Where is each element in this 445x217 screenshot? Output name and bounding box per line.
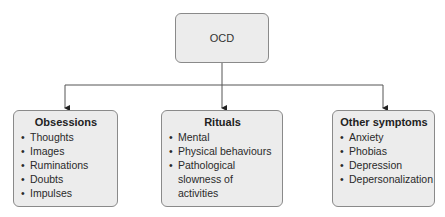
root-label: OCD (210, 32, 234, 44)
item-list: Thoughts Images Ruminations Doubts Impul… (21, 130, 111, 200)
list-item: Physical behaviours (169, 144, 276, 158)
node-obsessions: Obsessions Thoughts Images Ruminations D… (13, 110, 118, 207)
list-item: Pathological slowness of activities (169, 158, 276, 200)
node-rituals: Rituals Mental Physical behaviours Patho… (161, 110, 283, 207)
list-item: Doubts (21, 172, 111, 186)
list-item: Depression (340, 158, 428, 172)
list-item: Mental (169, 130, 276, 144)
list-item: Depersonalization (340, 172, 428, 186)
item-list: Anxiety Phobias Depression Depersonaliza… (340, 130, 428, 186)
list-item: Impulses (21, 186, 111, 200)
node-title: Rituals (169, 116, 276, 128)
node-other-symptoms: Other symptoms Anxiety Phobias Depressio… (332, 110, 435, 207)
node-title: Other symptoms (340, 116, 428, 128)
node-title: Obsessions (21, 116, 111, 128)
item-list: Mental Physical behaviours Pathological … (169, 130, 276, 200)
list-item: Thoughts (21, 130, 111, 144)
list-item: Ruminations (21, 158, 111, 172)
root-node-ocd: OCD (175, 13, 269, 63)
list-item: Phobias (340, 144, 428, 158)
list-item: Images (21, 144, 111, 158)
list-item: Anxiety (340, 130, 428, 144)
